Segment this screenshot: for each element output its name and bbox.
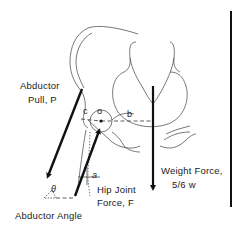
- lever-c-label: c: [83, 106, 88, 117]
- hip-joint-force-arrow: [75, 131, 99, 196]
- joint-center-label: o: [97, 106, 102, 117]
- abductor-pull-label-line2: Pull, P: [28, 94, 57, 105]
- weight-force-label-line1: Weight Force,: [161, 165, 223, 176]
- abductor-angle-label: Abductor Angle: [15, 210, 82, 221]
- angle-a-label: a: [92, 170, 97, 181]
- hip-force-diagram: Abductor Pull, P c o b a Hip Joint Force…: [0, 0, 241, 225]
- hip-joint-force-label-line2: Force, F: [97, 197, 134, 208]
- theta-label: θ: [51, 184, 56, 195]
- joint-center-dot: [99, 119, 102, 122]
- lever-b-label: b: [127, 109, 132, 120]
- weight-force-label-line2: 5/6 w: [172, 179, 196, 190]
- hip-joint-force-label-line1: Hip Joint: [97, 184, 136, 195]
- abductor-pull-label-line1: Abductor: [20, 80, 60, 91]
